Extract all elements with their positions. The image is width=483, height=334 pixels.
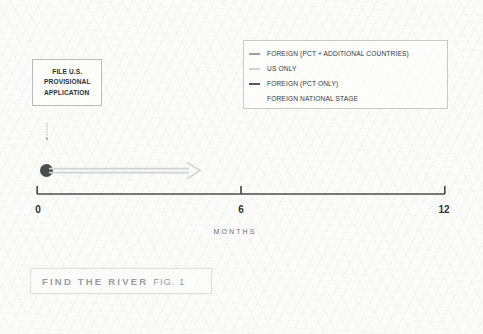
- legend-swatch-foreign-national-stage: [249, 98, 260, 100]
- legend-label-foreign-pct-only: FOREIGN (PCT ONLY): [267, 80, 338, 87]
- legend-swatch-us-only: [249, 68, 260, 70]
- axis-title-months: MONTHS: [214, 228, 257, 235]
- event-label-line-2: PROVISIONAL: [44, 77, 91, 88]
- legend-item-foreign-pct-only: FOREIGN (PCT ONLY): [249, 76, 447, 91]
- event-label-line-1: FILE U.S.: [52, 67, 82, 78]
- event-label-line-3: APPLICATION: [44, 88, 89, 99]
- legend-item-us-only: US ONLY: [249, 61, 447, 76]
- figure-caption-box: FIND THE RIVER FIG. 1: [30, 268, 212, 294]
- legend-label-foreign-pct-additional: FOREIGN (PCT + ADDITIONAL COUNTRIES): [267, 50, 409, 57]
- dashed-connector-line: [46, 106, 48, 158]
- cutoff-heading-fragment: · · · · ·: [4, 0, 34, 2]
- legend-swatch-foreign-pct-additional: [249, 53, 260, 55]
- legend-item-foreign-pct-additional: FOREIGN (PCT + ADDITIONAL COUNTRIES): [249, 46, 447, 61]
- axis-tick-label-0: 0: [35, 204, 41, 215]
- legend-label-us-only: US ONLY: [267, 65, 297, 72]
- figure-canvas: · · · · · FILE U.S. PROVISIONAL APPLICAT…: [0, 0, 483, 334]
- axis-tick-label-6: 6: [238, 204, 244, 215]
- legend-label-foreign-national-stage: FOREIGN NATIONAL STAGE: [267, 95, 358, 102]
- event-callout-box: FILE U.S. PROVISIONAL APPLICATION: [32, 59, 102, 106]
- us-only-track-arrow: [49, 161, 203, 180]
- legend-item-foreign-national-stage: FOREIGN NATIONAL STAGE: [249, 91, 447, 106]
- figure-caption-title: FIND THE RIVER: [42, 276, 148, 287]
- legend-swatch-foreign-pct-only: [249, 83, 260, 85]
- legend-box: FOREIGN (PCT + ADDITIONAL COUNTRIES) US …: [243, 40, 448, 109]
- figure-caption-number: FIG. 1: [153, 276, 185, 287]
- axis-tick-label-12: 12: [438, 204, 449, 215]
